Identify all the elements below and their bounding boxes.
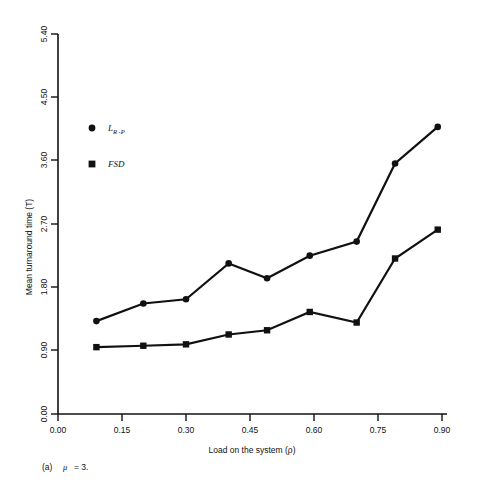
legend-label-fsd: FSD bbox=[107, 159, 125, 169]
caption-value: = 3. bbox=[74, 462, 88, 472]
x-tick-label: 0.75 bbox=[370, 425, 387, 435]
data-point-square bbox=[183, 341, 189, 347]
x-axis-ticks bbox=[58, 414, 442, 421]
y-axis-tick-labels: 5.40 4.50 3.60 2.70 1.80 0.90 0.00 bbox=[39, 25, 49, 422]
y-tick-label: 0.00 bbox=[39, 405, 49, 422]
series-line bbox=[96, 127, 437, 321]
data-point-circle bbox=[434, 124, 441, 131]
x-tick-label: 0.00 bbox=[50, 425, 67, 435]
data-point-square bbox=[307, 309, 313, 315]
data-point-circle bbox=[140, 300, 147, 307]
x-axis-tick-labels: 0.00 0.15 0.30 0.45 0.60 0.75 0.90 bbox=[50, 425, 451, 435]
data-point-circle bbox=[353, 238, 360, 245]
figure-container: 5.40 4.50 3.60 2.70 1.80 0.90 0.00 Mean … bbox=[0, 0, 477, 489]
data-point-square bbox=[264, 327, 270, 333]
data-point-square bbox=[392, 255, 398, 261]
data-point-circle bbox=[93, 318, 100, 325]
data-point-circle bbox=[264, 275, 271, 282]
data-point-square bbox=[435, 226, 441, 232]
x-tick-label: 0.90 bbox=[434, 425, 451, 435]
legend-marker-square-icon bbox=[89, 161, 96, 168]
caption-symbol: μ bbox=[62, 462, 67, 472]
series-layer bbox=[93, 124, 441, 351]
data-point-circle bbox=[183, 296, 190, 303]
y-tick-label: 5.40 bbox=[39, 25, 49, 42]
data-point-square bbox=[353, 319, 359, 325]
data-point-square bbox=[140, 343, 146, 349]
legend-label-lrp: LR -P bbox=[107, 123, 125, 135]
legend-marker-circle-icon bbox=[89, 125, 96, 132]
y-axis-title: Mean turnaround time (T) bbox=[24, 199, 34, 296]
line-chart: 5.40 4.50 3.60 2.70 1.80 0.90 0.00 Mean … bbox=[0, 0, 477, 489]
data-point-circle bbox=[392, 160, 399, 167]
x-axis-title: Load on the system (ρ) bbox=[208, 445, 295, 455]
y-tick-label: 2.70 bbox=[39, 215, 49, 232]
data-point-square bbox=[225, 331, 231, 337]
y-tick-label: 0.90 bbox=[39, 341, 49, 358]
x-tick-label: 0.30 bbox=[178, 425, 195, 435]
y-axis-ticks bbox=[51, 34, 58, 414]
figure-caption: (a) μ = 3. bbox=[42, 462, 88, 472]
data-point-square bbox=[93, 344, 99, 350]
chart-legend: LR -P FSD bbox=[89, 123, 125, 169]
data-point-circle bbox=[225, 260, 232, 267]
x-tick-label: 0.45 bbox=[242, 425, 259, 435]
caption-prefix: (a) bbox=[42, 462, 53, 472]
y-tick-label: 1.80 bbox=[39, 278, 49, 295]
y-tick-label: 4.50 bbox=[39, 88, 49, 105]
series-lrp bbox=[93, 124, 441, 325]
data-point-circle bbox=[306, 252, 313, 259]
y-tick-label: 3.60 bbox=[39, 151, 49, 168]
x-tick-label: 0.60 bbox=[306, 425, 323, 435]
x-tick-label: 0.15 bbox=[114, 425, 131, 435]
series-fsd bbox=[93, 226, 441, 350]
